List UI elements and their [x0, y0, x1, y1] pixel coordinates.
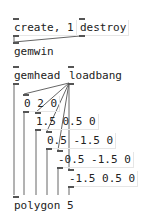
- gemhead-object-label: gemhead: [14, 69, 60, 82]
- inlet[interactable]: [57, 150, 63, 152]
- inlet[interactable]: [13, 196, 19, 198]
- vertex-message-5[interactable]: -1.5 0.5 0: [68, 171, 138, 187]
- vertex-message-label: 0 2 0: [24, 97, 57, 110]
- destroy-message[interactable]: destroy: [79, 20, 129, 36]
- inlet[interactable]: [13, 66, 19, 68]
- vertex-message-2[interactable]: 1.5 0.5 0: [35, 114, 99, 130]
- outlet[interactable]: [46, 148, 52, 150]
- loadbang-object-label: loadbang: [69, 69, 122, 82]
- outlet[interactable]: [23, 111, 29, 113]
- inlet[interactable]: [68, 66, 74, 68]
- inlet[interactable]: [13, 18, 19, 20]
- inlet[interactable]: [23, 94, 29, 96]
- outlet[interactable]: [68, 83, 74, 85]
- outlet[interactable]: [57, 167, 63, 169]
- vertex-message-label: 0.5 -1.5 0: [47, 134, 113, 147]
- polygon-object-label: polygon 5: [14, 199, 74, 212]
- loadbang-object[interactable]: loadbang: [68, 67, 124, 83]
- inlet[interactable]: [46, 131, 52, 133]
- gemwin-object[interactable]: gemwin: [13, 43, 56, 59]
- outlet[interactable]: [35, 129, 41, 131]
- inlet[interactable]: [35, 112, 41, 114]
- vertex-message-label: -1.5 0.5 0: [69, 172, 135, 185]
- outlet[interactable]: [13, 83, 19, 85]
- vertex-message-1[interactable]: 0 2 0: [23, 96, 60, 112]
- polygon-object[interactable]: polygon 5: [13, 197, 76, 213]
- vertex-message-label: -0.5 -1.5 0: [58, 153, 131, 166]
- inlet[interactable]: [79, 18, 85, 20]
- vertex-message-3[interactable]: 0.5 -1.5 0: [46, 133, 116, 149]
- vertex-message-4[interactable]: -0.5 -1.5 0: [57, 152, 134, 168]
- outlet[interactable]: [79, 35, 85, 37]
- create-message-label: create, 1: [14, 21, 74, 34]
- gemhead-object[interactable]: gemhead: [13, 67, 62, 83]
- destroy-message-label: destroy: [80, 21, 126, 34]
- outlet[interactable]: [13, 35, 19, 37]
- create-message[interactable]: create, 1: [13, 20, 77, 36]
- gemwin-object-label: gemwin: [14, 45, 54, 58]
- inlet[interactable]: [13, 42, 19, 44]
- outlet[interactable]: [68, 186, 74, 188]
- inlet[interactable]: [68, 169, 74, 171]
- vertex-message-label: 1.5 0.5 0: [36, 115, 96, 128]
